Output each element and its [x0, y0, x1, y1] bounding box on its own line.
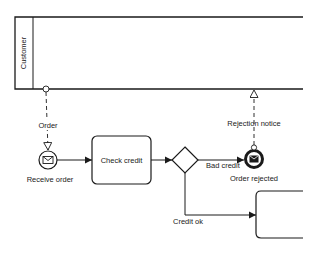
message-flow-label-order: Order [38, 121, 58, 130]
message-flow-rejection-notice[interactable]: Rejection notice [227, 90, 280, 150]
customer-pool[interactable]: Customer [15, 17, 303, 89]
message-flow-label-rejection: Rejection notice [227, 119, 280, 128]
start-event-receive-order[interactable]: Receive order [27, 151, 74, 184]
bpmn-canvas: Customer Order Receive order Check credi… [0, 0, 317, 254]
task-check-credit[interactable]: Check credit [92, 136, 151, 184]
pool-label: Customer [19, 36, 28, 69]
sequence-flow-bad-credit[interactable]: Bad credit [198, 160, 244, 170]
end-event-label: Order rejected [230, 174, 278, 183]
task-partial[interactable] [256, 191, 303, 238]
flow-label-bad-credit: Bad credit [206, 161, 241, 170]
exclusive-gateway[interactable] [172, 147, 198, 173]
start-event-label: Receive order [27, 175, 74, 184]
envelope-icon [43, 157, 53, 164]
filled-envelope-icon [250, 156, 259, 163]
message-flow-order[interactable]: Order [36, 86, 60, 150]
flow-label-credit-ok: Credit ok [173, 217, 203, 226]
task-label-check-credit: Check credit [101, 156, 144, 165]
